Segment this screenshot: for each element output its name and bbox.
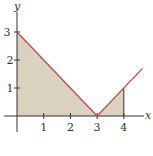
y-tick-label: 2 — [7, 54, 14, 67]
x-tick-label: 3 — [94, 121, 101, 134]
x-tick-label: 2 — [67, 121, 74, 134]
chart: 1234123xy — [0, 0, 153, 156]
y-axis-label: y — [13, 0, 21, 13]
x-tick-label: 4 — [120, 121, 127, 134]
y-tick-label: 3 — [4, 26, 11, 39]
x-tick-label: 1 — [40, 121, 47, 134]
shaded-area — [17, 32, 124, 116]
y-tick-label: 1 — [7, 82, 14, 95]
shaded-region — [17, 32, 124, 116]
x-axis-label: x — [145, 109, 152, 122]
